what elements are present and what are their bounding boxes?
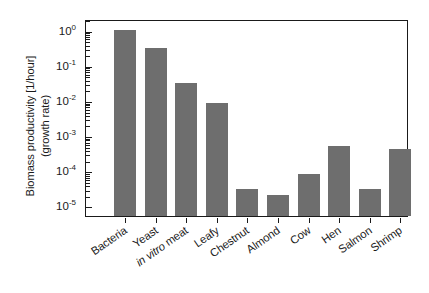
y-tick-minor xyxy=(86,145,90,146)
y-tick-label-1: 10-1 xyxy=(56,60,76,72)
x-axis-tick-labels: BacteriaYeastin vitro meatLeafyChestnutA… xyxy=(0,217,429,293)
y-tick-minor xyxy=(86,116,90,117)
y-tick-label-0: 100 xyxy=(59,25,76,37)
bar-in-vitro-meat xyxy=(175,83,197,216)
x-label-salmon: Salmon xyxy=(336,224,374,255)
y-tick-label-2: 10-2 xyxy=(56,95,76,107)
y-tick-minor xyxy=(86,91,90,92)
bar-bacteria xyxy=(114,30,136,216)
y-tick-label-5: 10-5 xyxy=(56,200,76,212)
plot-inner xyxy=(86,21,407,216)
chart-figure: Biomass productivity [1/hour] (growth ra… xyxy=(0,0,429,293)
y-tick-minor xyxy=(86,33,90,34)
bar-leafy xyxy=(206,103,228,216)
y-tick-minor xyxy=(86,197,90,198)
y-tick-minor xyxy=(86,178,90,179)
y-tick-minor xyxy=(86,143,90,144)
y-tick-minor xyxy=(86,37,90,38)
y-tick-minor xyxy=(86,81,90,82)
y-tick-minor xyxy=(86,126,90,127)
y-tick-minor xyxy=(86,104,90,105)
bar-almond xyxy=(267,195,289,216)
y-tick-minor xyxy=(86,21,90,22)
bar-yeast xyxy=(145,48,167,216)
y-tick-minor xyxy=(86,46,90,47)
x-label-shrimp: Shrimp xyxy=(369,224,405,254)
y-axis-tick-labels: 10010-110-210-310-410-5 xyxy=(40,20,82,217)
y-tick-minor xyxy=(86,70,90,71)
bar-hen xyxy=(328,146,350,216)
y-tick-label-4: 10-4 xyxy=(56,165,76,177)
y-tick-minor xyxy=(86,162,90,163)
y-tick-minor xyxy=(86,120,90,121)
y-tick-minor xyxy=(86,77,90,78)
y-tick-minor xyxy=(86,75,90,76)
y-tick-minor xyxy=(86,180,90,181)
y-tick-minor xyxy=(86,113,90,114)
x-label-cow: Cow xyxy=(287,224,312,247)
bar-cow xyxy=(298,174,320,216)
y-tick-minor xyxy=(86,183,90,184)
y-tick-minor xyxy=(86,139,90,140)
y-tick-minor xyxy=(86,107,90,108)
y-tick-minor xyxy=(86,85,90,86)
y-tick-minor xyxy=(86,50,90,51)
bar-shrimp xyxy=(389,149,411,216)
y-tick-minor xyxy=(86,105,90,106)
y-tick-minor xyxy=(86,174,90,175)
y-tick-label-3: 10-3 xyxy=(56,130,76,142)
y-tick-minor xyxy=(86,148,90,149)
x-label-bacteria: Bacteria xyxy=(89,224,129,257)
y-tick-minor xyxy=(86,176,90,177)
y-tick-minor xyxy=(86,110,90,111)
bar-salmon xyxy=(359,189,381,216)
y-tick-minor xyxy=(86,151,90,152)
y-axis-title-line1: Biomass productivity [1/hour] xyxy=(23,56,38,197)
y-tick-minor xyxy=(86,56,90,57)
y-tick-minor xyxy=(86,155,90,156)
y-tick-minor xyxy=(86,68,90,69)
x-label-almond: Almond xyxy=(244,224,282,255)
y-tick-minor xyxy=(86,42,90,43)
y-tick-minor xyxy=(86,39,90,40)
y-tick-minor xyxy=(86,191,90,192)
plot-area xyxy=(85,20,408,217)
y-tick-major-5 xyxy=(86,207,92,208)
y-tick-minor xyxy=(86,186,90,187)
y-tick-minor xyxy=(86,72,90,73)
y-tick-minor xyxy=(86,140,90,141)
y-tick-minor xyxy=(86,35,90,36)
bar-chestnut xyxy=(236,189,258,216)
